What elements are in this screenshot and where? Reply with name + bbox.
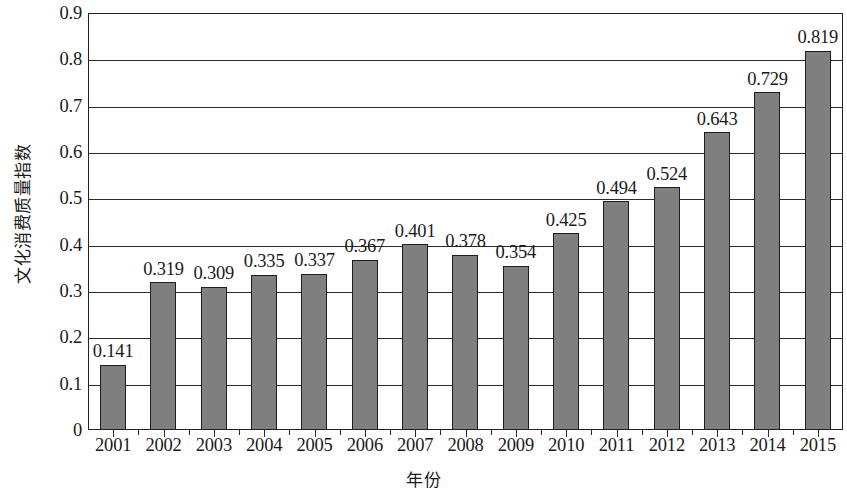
plot-area — [88, 13, 843, 430]
y-axis-tick-label: 0.4 — [36, 236, 82, 255]
y-axis-tick-label: 0 — [36, 421, 82, 440]
x-axis-minor-tick-mark — [138, 430, 139, 435]
x-axis-minor-tick-mark — [491, 430, 492, 435]
bar-chart: 文化消费质量指数 00.10.20.30.40.50.60.70.80.9 0.… — [0, 0, 847, 495]
y-axis-tick-label: 0.6 — [36, 143, 82, 162]
x-axis-minor-tick-mark — [541, 430, 542, 435]
y-axis-tick-label: 0.5 — [36, 189, 82, 208]
x-axis-tick-label: 2003 — [196, 436, 232, 455]
x-axis-tick-label: 2010 — [548, 436, 584, 455]
x-axis-tick-label: 2005 — [296, 436, 332, 455]
y-axis-tick-label: 0.1 — [36, 375, 82, 394]
x-axis-tick-labels: 2001200220032004200520062007200820092010… — [88, 436, 843, 462]
gridline — [89, 107, 842, 108]
x-axis-tick-label: 2011 — [599, 436, 635, 455]
x-axis-minor-tick-mark — [189, 430, 190, 435]
gridline — [89, 153, 842, 154]
gridline — [89, 338, 842, 339]
y-axis-tick-label: 0.2 — [36, 328, 82, 347]
x-axis-tick-label: 2004 — [246, 436, 282, 455]
gridline — [89, 60, 842, 61]
gridline — [89, 385, 842, 386]
y-axis-title: 文化消费质量指数 — [15, 99, 32, 329]
y-axis-tick-label: 0.3 — [36, 282, 82, 301]
x-axis-minor-tick-mark — [289, 430, 290, 435]
x-axis-minor-tick-mark — [390, 430, 391, 435]
x-axis-minor-tick-mark — [239, 430, 240, 435]
x-axis-minor-tick-mark — [793, 430, 794, 435]
x-axis-tick-label: 2012 — [649, 436, 685, 455]
x-axis-tick-label: 2015 — [800, 436, 836, 455]
x-axis-tick-label: 2002 — [145, 436, 181, 455]
x-axis-minor-tick-mark — [642, 430, 643, 435]
x-axis-tick-label: 2014 — [749, 436, 785, 455]
y-axis-tick-label: 0.8 — [36, 50, 82, 69]
y-axis-tick-labels: 00.10.20.30.40.50.60.70.80.9 — [30, 13, 82, 430]
x-axis-tick-label: 2001 — [95, 436, 131, 455]
x-axis-minor-tick-mark — [692, 430, 693, 435]
x-axis-title: 年份 — [0, 466, 847, 491]
x-axis-tick-label: 2008 — [447, 436, 483, 455]
x-axis-minor-tick-mark — [591, 430, 592, 435]
x-axis-minor-tick-mark — [742, 430, 743, 435]
x-axis-tick-label: 2009 — [498, 436, 534, 455]
y-axis-tick-label: 0.9 — [36, 4, 82, 23]
x-axis-tick-label: 2006 — [347, 436, 383, 455]
gridline — [89, 199, 842, 200]
gridline — [89, 292, 842, 293]
x-axis-minor-tick-mark — [340, 430, 341, 435]
x-axis-tick-label: 2007 — [397, 436, 433, 455]
x-axis-tick-label: 2013 — [699, 436, 735, 455]
y-axis-tick-label: 0.7 — [36, 97, 82, 116]
gridline — [89, 246, 842, 247]
x-axis-minor-tick-mark — [440, 430, 441, 435]
